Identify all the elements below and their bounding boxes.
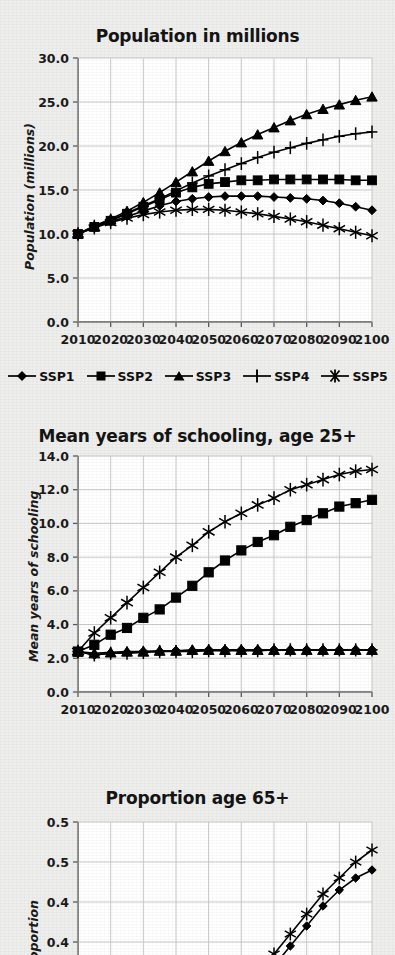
legend-label-ssp1: SSP1 xyxy=(39,369,74,384)
legend-label-ssp4: SSP4 xyxy=(274,369,309,384)
svg-text:2060: 2060 xyxy=(224,702,259,717)
svg-text:2050: 2050 xyxy=(191,332,226,347)
svg-text:2070: 2070 xyxy=(257,332,292,347)
svg-text:0.0: 0.0 xyxy=(47,315,69,330)
legend-item-ssp5: SSP5 xyxy=(320,368,387,384)
legend-key-plus-icon xyxy=(242,368,272,384)
svg-text:2040: 2040 xyxy=(159,332,194,347)
svg-text:15.0: 15.0 xyxy=(38,183,69,198)
svg-text:2090: 2090 xyxy=(322,702,357,717)
svg-text:25.0: 25.0 xyxy=(38,95,69,110)
chart-panel-proportion65: Proportion age 65+ Proportion 0.50.50.40… xyxy=(0,760,395,955)
chart-panel-schooling: Mean years of schooling, age 25+ Mean ye… xyxy=(0,400,395,760)
figure-ssp-projections: Population in millions Population (milli… xyxy=(0,0,395,955)
svg-text:2090: 2090 xyxy=(322,332,357,347)
svg-text:2060: 2060 xyxy=(224,332,259,347)
svg-text:2010: 2010 xyxy=(61,332,96,347)
svg-text:10.0: 10.0 xyxy=(38,227,69,242)
svg-text:2080: 2080 xyxy=(289,332,324,347)
svg-text:6.0: 6.0 xyxy=(47,583,69,598)
svg-text:0.5: 0.5 xyxy=(47,815,69,830)
svg-text:0.4: 0.4 xyxy=(47,935,69,950)
chart-canvas-schooling: 0.02.04.06.08.010.012.014.02010202020302… xyxy=(0,400,395,760)
legend-label-ssp5: SSP5 xyxy=(352,369,387,384)
svg-text:2020: 2020 xyxy=(93,332,128,347)
svg-text:5.0: 5.0 xyxy=(47,271,69,286)
legend-key-star-icon xyxy=(320,368,350,384)
legend-label-ssp2: SSP2 xyxy=(118,369,153,384)
svg-text:0.4: 0.4 xyxy=(47,895,69,910)
svg-text:2030: 2030 xyxy=(126,332,161,347)
svg-text:30.0: 30.0 xyxy=(38,51,69,66)
svg-text:20.0: 20.0 xyxy=(38,139,69,154)
legend-key-square-icon xyxy=(86,368,116,384)
svg-text:0.5: 0.5 xyxy=(47,855,69,870)
svg-text:2.0: 2.0 xyxy=(47,651,69,666)
legend-key-diamond-icon xyxy=(7,368,37,384)
legend-item-ssp3: SSP3 xyxy=(164,368,231,384)
svg-text:14.0: 14.0 xyxy=(38,449,69,464)
svg-text:2010: 2010 xyxy=(61,702,96,717)
svg-text:2070: 2070 xyxy=(257,702,292,717)
svg-text:2080: 2080 xyxy=(289,702,324,717)
svg-text:2100: 2100 xyxy=(355,702,390,717)
svg-text:2100: 2100 xyxy=(355,332,390,347)
svg-text:2030: 2030 xyxy=(126,702,161,717)
svg-text:2020: 2020 xyxy=(93,702,128,717)
legend-item-ssp2: SSP2 xyxy=(86,368,153,384)
legend-item-ssp4: SSP4 xyxy=(242,368,309,384)
svg-text:0.0: 0.0 xyxy=(47,685,69,700)
svg-text:2040: 2040 xyxy=(159,702,194,717)
svg-text:8.0: 8.0 xyxy=(47,550,69,565)
svg-text:12.0: 12.0 xyxy=(38,482,69,497)
legend-key-triangle-icon xyxy=(164,368,194,384)
svg-text:4.0: 4.0 xyxy=(47,617,69,632)
chart-panel-population: Population in millions Population (milli… xyxy=(0,0,395,400)
chart-canvas-population: 0.05.010.015.020.025.030.020102020203020… xyxy=(0,0,395,400)
svg-text:2050: 2050 xyxy=(191,702,226,717)
chart-canvas-proportion65: 0.50.50.40.40.30.3 xyxy=(0,760,395,955)
legend-label-ssp3: SSP3 xyxy=(196,369,231,384)
legend-item-ssp1: SSP1 xyxy=(7,368,74,384)
legend-ssp: SSP1 SSP2 SSP3 xyxy=(0,365,395,387)
svg-text:10.0: 10.0 xyxy=(38,516,69,531)
